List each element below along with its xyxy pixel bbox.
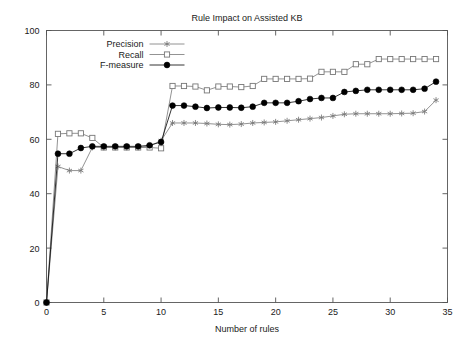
plot-frame — [47, 31, 448, 303]
data-point — [158, 139, 164, 145]
data-point — [67, 151, 73, 157]
chart-svg: 05101520253035020406080100Rule Impact on… — [0, 0, 469, 348]
x-tick-label: 35 — [442, 307, 452, 317]
data-point — [250, 83, 255, 88]
data-point — [216, 84, 221, 89]
x-tick-label: 5 — [101, 307, 106, 317]
x-axis-title: Number of rules — [215, 324, 280, 334]
data-point — [273, 100, 279, 106]
data-point — [296, 98, 302, 104]
legend-sample-precision — [150, 41, 185, 47]
x-tick-label: 30 — [385, 307, 395, 317]
legend-marker — [164, 52, 169, 57]
data-point — [376, 87, 382, 93]
data-point — [124, 143, 130, 149]
x-tick-label: 20 — [271, 307, 281, 317]
series-line-precision — [47, 100, 437, 302]
data-point — [227, 84, 232, 89]
x-tick-label: 15 — [213, 307, 223, 317]
data-point — [55, 131, 60, 136]
data-point — [112, 143, 118, 149]
data-point — [433, 56, 438, 61]
data-point — [433, 79, 439, 85]
data-point — [341, 89, 347, 95]
x-tick-label: 25 — [328, 307, 338, 317]
data-point — [158, 146, 163, 151]
data-point — [342, 69, 347, 74]
data-point — [78, 145, 84, 151]
data-point — [262, 76, 267, 81]
data-point — [261, 100, 267, 106]
data-point — [307, 76, 312, 81]
data-point — [170, 103, 176, 109]
series-precision — [44, 97, 439, 305]
data-point — [285, 76, 290, 81]
y-tick-label: 20 — [29, 244, 39, 254]
series-line-recall — [47, 59, 437, 302]
y-tick-label: 80 — [29, 80, 39, 90]
data-point — [147, 142, 153, 148]
data-point — [89, 143, 95, 149]
data-point — [170, 83, 175, 88]
series-recall — [44, 56, 439, 305]
data-point — [215, 105, 221, 111]
data-point — [330, 69, 335, 74]
y-tick-label: 0 — [34, 298, 39, 308]
data-point — [364, 87, 370, 93]
legend-label-recall: Recall — [118, 50, 143, 60]
data-point — [101, 143, 107, 149]
data-point — [181, 103, 187, 109]
data-point — [296, 76, 301, 81]
data-point — [284, 100, 290, 106]
legend-label-precision: Precision — [106, 39, 143, 49]
data-point — [78, 131, 83, 136]
data-point — [44, 300, 50, 306]
chart-title: Rule Impact on Assisted KB — [191, 13, 302, 23]
data-point — [376, 56, 381, 61]
data-point — [193, 84, 198, 89]
data-point — [181, 83, 186, 88]
data-point — [399, 87, 405, 93]
data-point — [135, 143, 141, 149]
data-point — [399, 56, 404, 61]
legend-label-f-measure: F-measure — [100, 60, 144, 70]
data-point — [55, 151, 61, 157]
data-point — [411, 56, 416, 61]
legend-sample-f-measure — [150, 62, 185, 68]
data-point — [410, 87, 416, 93]
data-point — [250, 104, 256, 110]
data-point — [353, 88, 359, 94]
data-point — [422, 56, 427, 61]
chart-figure: 05101520253035020406080100Rule Impact on… — [0, 0, 469, 348]
x-tick-label: 0 — [44, 307, 49, 317]
data-point — [422, 86, 428, 92]
y-tick-label: 40 — [29, 189, 39, 199]
data-point — [388, 56, 393, 61]
data-point — [387, 87, 393, 93]
data-point — [204, 88, 209, 93]
legend-sample-recall — [150, 52, 185, 57]
data-point — [193, 104, 199, 110]
data-point — [319, 95, 325, 101]
y-tick-label: 100 — [24, 26, 39, 36]
data-point — [238, 105, 244, 111]
legend-marker — [164, 62, 170, 68]
data-point — [330, 95, 336, 101]
data-point — [90, 135, 95, 140]
data-point — [353, 62, 358, 67]
data-point — [273, 76, 278, 81]
data-point — [227, 105, 233, 111]
data-point — [67, 131, 72, 136]
data-point — [307, 96, 313, 102]
data-point — [365, 62, 370, 67]
data-point — [204, 105, 210, 111]
x-tick-label: 10 — [156, 307, 166, 317]
y-tick-label: 60 — [29, 135, 39, 145]
data-point — [239, 84, 244, 89]
data-point — [319, 69, 324, 74]
